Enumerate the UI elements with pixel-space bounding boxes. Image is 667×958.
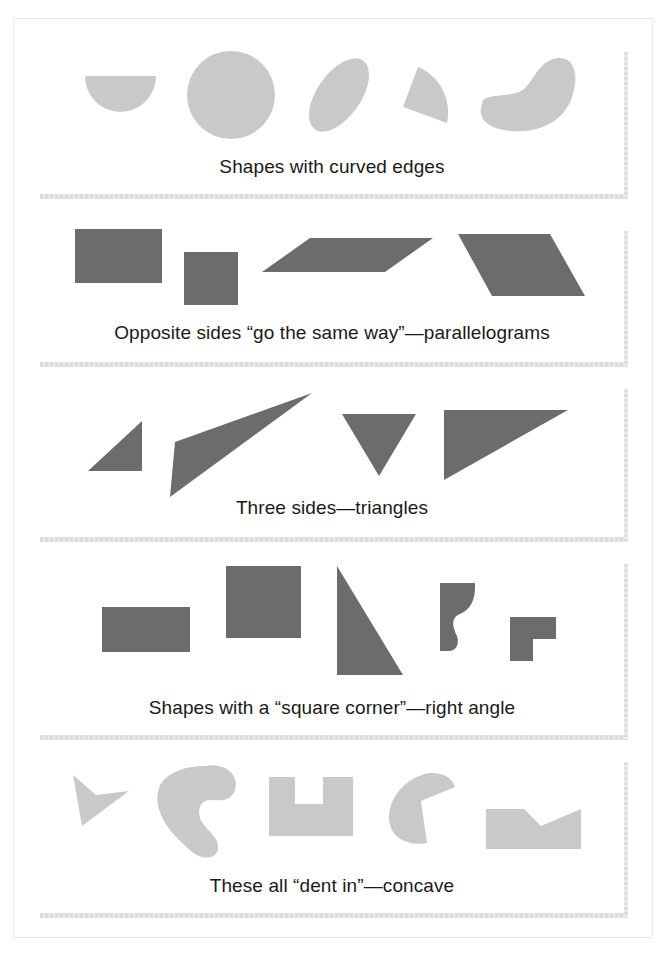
- concave-shapes: [73, 765, 581, 857]
- caption-curved: Shapes with curved edges: [40, 156, 624, 178]
- right-triangle-small-shape: [88, 421, 142, 471]
- square-shape: [226, 566, 301, 638]
- caption-triangles: Three sides—triangles: [40, 497, 624, 519]
- rectangle-shape: [75, 229, 162, 283]
- bean-shape: [481, 58, 576, 131]
- slanted-parallelogram-shape: [262, 238, 433, 272]
- caption-right-angles: Shapes with a “square corner”—right angl…: [40, 697, 624, 719]
- shapes-canvas: [0, 0, 667, 958]
- right-triangle-shape: [337, 566, 403, 675]
- obtuse-triangle-shape: [170, 393, 312, 497]
- pac-man-shape: [389, 773, 455, 844]
- v-notch-shape: [486, 809, 581, 849]
- parallelogram-shapes: [75, 229, 585, 305]
- curved-shapes: [85, 48, 575, 142]
- circle-shape: [187, 51, 275, 139]
- square-shape: [184, 252, 238, 305]
- kidney-shape: [157, 765, 236, 857]
- inverted-triangle-shape: [342, 414, 416, 476]
- caption-concave: These all “dent in”—concave: [40, 875, 624, 897]
- rectangle-shape: [102, 607, 190, 652]
- triangle-shapes: [88, 393, 568, 497]
- u-notch-shape: [269, 777, 353, 836]
- curvy-corner-shape: [440, 583, 475, 651]
- circle-sector-shape: [403, 67, 448, 123]
- arrowhead-shape: [73, 775, 129, 826]
- l-shape: [510, 617, 556, 661]
- half-circle-shape: [85, 76, 156, 112]
- right-triangle-large-shape: [444, 410, 568, 480]
- tilted-ellipse-shape: [297, 48, 381, 142]
- right-angle-shapes: [102, 566, 556, 675]
- caption-parallelograms: Opposite sides “go the same way”—paralle…: [40, 322, 624, 344]
- rhombus-parallelogram-shape: [458, 234, 585, 296]
